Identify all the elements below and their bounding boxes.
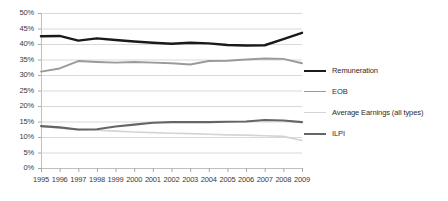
legend-item[interactable]: EOB (304, 81, 448, 102)
legend-item[interactable]: Remuneration (304, 60, 448, 81)
series-line-1 (41, 59, 302, 72)
legend-item-label: Average Earnings (all types) (332, 108, 423, 117)
y-tick-label: 20% (8, 101, 34, 110)
legend-item[interactable]: ILPI (304, 123, 448, 144)
chart-legend: RemunerationEOBAverage Earnings (all typ… (304, 60, 448, 144)
x-tick-label: 2009 (291, 175, 313, 184)
legend-item[interactable]: Average Earnings (all types) (304, 102, 448, 123)
line-chart: 50%45%40%35%30%25%20%15%10%5%0% 19951996… (0, 0, 448, 201)
legend-line-swatch (304, 112, 326, 113)
y-tick-label: 5% (8, 148, 34, 157)
series-line-0 (41, 33, 302, 46)
legend-line-swatch (304, 91, 326, 92)
legend-line-swatch (304, 70, 326, 72)
y-tick-label: 50% (8, 8, 34, 17)
y-tick-label: 45% (8, 24, 34, 33)
y-tick-label: 15% (8, 117, 34, 126)
y-tick-label: 40% (8, 39, 34, 48)
y-tick-label: 0% (8, 163, 34, 172)
legend-item-label: ILPI (332, 129, 345, 138)
y-tick-label: 35% (8, 55, 34, 64)
y-tick-label: 10% (8, 132, 34, 141)
y-tick-label: 25% (8, 86, 34, 95)
legend-item-label: Remuneration (332, 66, 378, 75)
legend-item-label: EOB (332, 87, 348, 96)
y-tick-label: 30% (8, 70, 34, 79)
series-line-3 (41, 120, 302, 130)
legend-line-swatch (304, 133, 326, 135)
